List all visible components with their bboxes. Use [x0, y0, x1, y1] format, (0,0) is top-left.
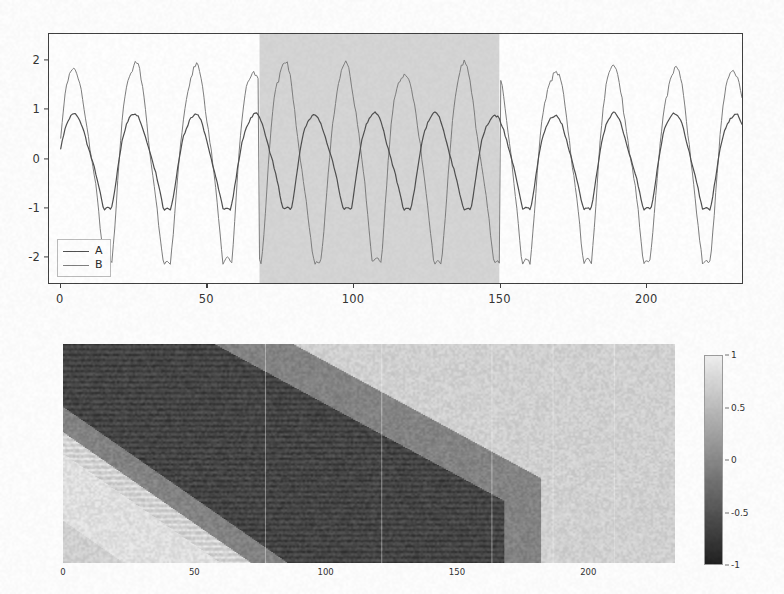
shaded-span-region [260, 34, 500, 283]
y-tick-label: 0 [8, 152, 40, 166]
y-tick-mark [44, 158, 48, 159]
x-tick-mark [500, 284, 501, 288]
heatmap-x-tick-label: 0 [60, 567, 65, 577]
timeseries-y-axis: 210-1-2 [6, 33, 48, 284]
colorbar-tick-label: 0 [731, 455, 737, 465]
y-tick-mark [44, 109, 48, 110]
x-tick-mark [353, 284, 354, 288]
heatmap-x-tick-label: 200 [580, 567, 596, 577]
y-tick-label: 2 [8, 53, 40, 67]
timeseries-svg [49, 34, 742, 283]
legend-swatch-b [63, 265, 89, 266]
y-tick-label: -2 [8, 250, 40, 264]
heatmap-x-tick-label: 50 [189, 567, 200, 577]
y-tick-label: -1 [8, 201, 40, 215]
heatmap-column-seam [553, 344, 554, 563]
heatmap-svg [63, 344, 675, 563]
y-tick-mark [44, 256, 48, 257]
heatmap-plot-area [63, 344, 675, 563]
heatmap-column-seam [491, 344, 492, 563]
colorbar-tick-label: -0.5 [731, 508, 749, 518]
legend-item-a: A [63, 244, 103, 258]
timeseries-legend: A B [57, 239, 111, 277]
heatmap-x-axis: 050100150200 [63, 563, 675, 585]
heatmap-x-tick-label: 100 [318, 567, 334, 577]
legend-label-b: B [95, 257, 103, 273]
colorbar-tick-mark [725, 565, 729, 566]
heatmap-column-seam [614, 344, 615, 563]
x-tick-mark [60, 284, 61, 288]
y-tick-mark [44, 207, 48, 208]
colorbar-tick-mark [725, 407, 729, 408]
colorbar-tick-mark [725, 355, 729, 356]
colorbar-tick-mark [725, 460, 729, 461]
timeseries-x-axis: 050100150200 [48, 284, 743, 310]
legend-item-b: B [63, 258, 103, 272]
colorbar-gradient [705, 356, 722, 564]
x-tick-label: 100 [342, 292, 365, 306]
colorbar [704, 355, 723, 565]
colorbar-tick-label: 0.5 [731, 403, 745, 413]
heatmap-column-seam [381, 344, 382, 563]
heatmap-column-seam [265, 344, 266, 563]
x-tick-label: 50 [199, 292, 214, 306]
colorbar-tick-label: 1 [731, 350, 737, 360]
x-tick-mark [206, 284, 207, 288]
colorbar-tick-mark [725, 512, 729, 513]
colorbar-tick-labels: 10.50-0.5-1 [725, 355, 765, 565]
legend-swatch-a [63, 251, 89, 252]
y-tick-label: 1 [8, 102, 40, 116]
figure-canvas: A B 210-1-2 050100150200 050100150200 [0, 0, 784, 594]
heatmap-x-tick-label: 150 [449, 567, 465, 577]
timeseries-plot-area: A B [48, 33, 743, 284]
x-tick-label: 150 [488, 292, 511, 306]
y-tick-mark [44, 59, 48, 60]
x-tick-mark [646, 284, 647, 288]
x-tick-label: 200 [635, 292, 658, 306]
colorbar-tick-label: -1 [731, 560, 740, 570]
x-tick-label: 0 [56, 292, 64, 306]
